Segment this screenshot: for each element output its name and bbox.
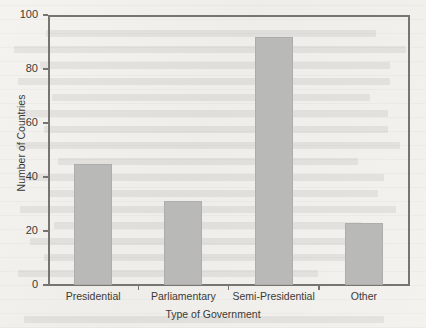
plot-frame-left-border xyxy=(48,15,50,286)
y-tick-mark xyxy=(43,122,48,124)
y-axis-title: Number of Countries xyxy=(15,73,27,213)
y-tick-label: 0 xyxy=(4,279,38,290)
y-tick-label: 100 xyxy=(4,9,38,20)
plot-frame-top-border xyxy=(48,15,409,17)
y-tick-label: 20 xyxy=(4,225,38,236)
bar-semi-presidential xyxy=(255,37,293,285)
x-tick-label: Parliamentary xyxy=(138,290,228,302)
y-tick-mark xyxy=(43,176,48,178)
bar-chart: 020406080100 PresidentialParliamentarySe… xyxy=(0,0,426,328)
x-tick-label: Presidential xyxy=(48,290,138,302)
y-tick-mark xyxy=(43,230,48,232)
y-tick-mark xyxy=(43,14,48,16)
plot-frame-right-border xyxy=(408,15,410,286)
bar-other xyxy=(345,223,383,285)
bar-presidential xyxy=(74,164,112,286)
x-tick-label: Other xyxy=(319,290,409,302)
x-tick-label: Semi-Presidential xyxy=(229,290,319,302)
y-tick-mark xyxy=(43,284,48,286)
x-axis-title: Type of Government xyxy=(0,308,426,320)
bar-parliamentary xyxy=(164,201,202,285)
y-tick-mark xyxy=(43,68,48,70)
